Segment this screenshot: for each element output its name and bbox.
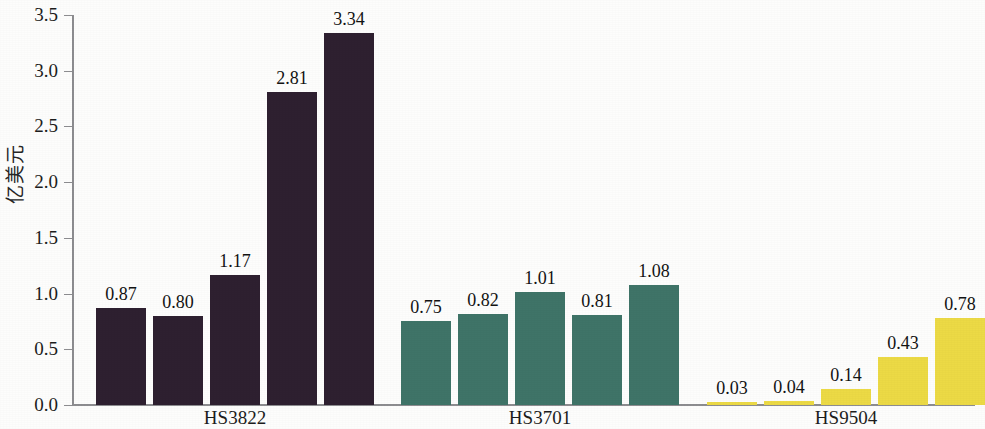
bar[interactable]: 0.80 (153, 316, 203, 405)
bar-rect (401, 321, 451, 405)
bar-value-label: 0.14 (830, 365, 862, 386)
bar-value-label: 0.82 (467, 290, 499, 311)
bar-rect (324, 33, 374, 405)
bar[interactable]: 0.82 (458, 314, 508, 405)
bar[interactable]: 1.08 (629, 285, 679, 405)
bar-value-label: 3.34 (333, 9, 365, 30)
bar[interactable]: 0.75 (401, 321, 451, 405)
bar-value-label: 1.08 (638, 261, 670, 282)
bar-value-label: 0.03 (716, 378, 748, 399)
bar-value-label: 0.43 (887, 333, 919, 354)
bar[interactable]: 1.01 (515, 292, 565, 405)
bar[interactable]: 0.43 (878, 357, 928, 405)
bar-rect (764, 401, 814, 405)
bar-rect (935, 318, 985, 405)
bar-value-label: 1.17 (219, 251, 251, 272)
bar-value-label: 2.81 (276, 68, 308, 89)
bar-value-label: 0.81 (581, 291, 613, 312)
bar-rect (572, 315, 622, 405)
x-axis-group-label: HS3822 (96, 407, 374, 429)
bar[interactable]: 1.17 (210, 275, 260, 405)
plot-area: 0.870.801.172.813.340.750.821.010.811.08… (0, 0, 985, 429)
bar-value-label: 1.01 (524, 268, 556, 289)
x-axis-group-label: HS3701 (401, 407, 679, 429)
bar[interactable]: 2.81 (267, 92, 317, 405)
bar-rect (629, 285, 679, 405)
bar-rect (96, 308, 146, 405)
bar-rect (267, 92, 317, 405)
bar-value-label: 0.80 (162, 292, 194, 313)
bar[interactable]: 3.34 (324, 33, 374, 405)
bar-value-label: 0.78 (944, 294, 976, 315)
bar-rect (821, 389, 871, 405)
bar[interactable]: 0.04 (764, 401, 814, 405)
bar-value-label: 0.87 (105, 284, 137, 305)
bar[interactable]: 0.81 (572, 315, 622, 405)
bar-rect (878, 357, 928, 405)
bar[interactable]: 0.87 (96, 308, 146, 405)
bar-rect (458, 314, 508, 405)
bar-rect (153, 316, 203, 405)
bar[interactable]: 0.03 (707, 402, 757, 405)
bar-rect (210, 275, 260, 405)
bar-chart: 亿美元 3.53.02.52.01.51.00.50.0 0.870.801.1… (0, 0, 985, 429)
x-axis-group-label: HS9504 (707, 407, 985, 429)
bar-rect (707, 402, 757, 405)
bar[interactable]: 0.78 (935, 318, 985, 405)
bar-rect (515, 292, 565, 405)
bar[interactable]: 0.14 (821, 389, 871, 405)
bar-value-label: 0.75 (410, 297, 442, 318)
bar-value-label: 0.04 (773, 377, 805, 398)
